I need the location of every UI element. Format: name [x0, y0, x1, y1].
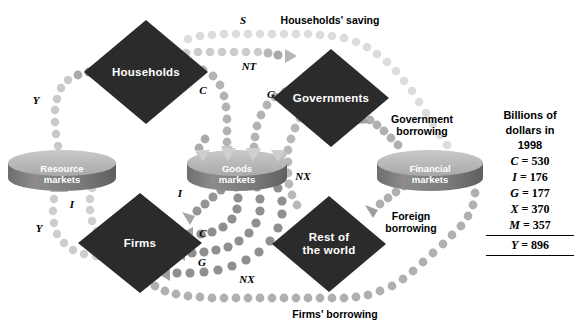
legend-row-g: G = 177 [486, 185, 574, 201]
legend-heading-line2: dollars in [486, 123, 574, 138]
market-label-line2: markets [219, 174, 255, 185]
flow-letter-nt: NT [241, 60, 258, 72]
flow-letter-c-bottom: C [199, 227, 207, 239]
legend-row-symbol: G [510, 186, 519, 200]
legend-total-row: Y = 896 [486, 235, 574, 256]
legend-row-symbol: X [511, 202, 519, 216]
flow-letter-nx-bottom: NX [238, 273, 255, 285]
sector-governments[interactable]: Governments [273, 49, 389, 147]
legend-row-eq: = [522, 154, 529, 168]
legend-row-eq: = [523, 218, 530, 232]
caption-government-borrowing-line1: Government [391, 113, 453, 125]
legend-row-m: M = 357 [486, 217, 574, 233]
flow-letter-y-top: Y [33, 94, 41, 106]
caption-households-saving: Households' saving [281, 14, 380, 26]
legend-row-symbol: I [512, 170, 517, 184]
circular-flow-diagram: Resource markets Goods markets Financial… [0, 0, 579, 326]
legend-row-c: C = 530 [486, 153, 574, 169]
flow-letter-s: S [240, 14, 246, 26]
caption-foreign-borrowing-line1: Foreign [392, 210, 431, 222]
flow-letter-y-bottom: Y [36, 222, 44, 234]
legend-panel: Billions of dollars in 1998 C = 530I = 1… [486, 108, 574, 256]
sector-firms[interactable]: Firms [78, 193, 202, 293]
legend-row-value: 370 [531, 202, 549, 216]
legend-rows: C = 530I = 176G = 177X = 370M = 357 [486, 153, 574, 233]
legend-row-eq: = [520, 170, 527, 184]
arrowhead-foreign-borrowing [365, 205, 378, 218]
sector-label-firms: Firms [124, 237, 156, 249]
legend-row-eq: = [522, 202, 529, 216]
market-label-line2: markets [44, 174, 80, 185]
market-resource-markets[interactable]: Resource markets [8, 150, 116, 191]
arrowhead-i-into-firms [182, 212, 195, 225]
flow-letter-g-top: G [267, 88, 275, 100]
legend-heading-line3: 1998 [486, 138, 574, 153]
legend-row-symbol: C [511, 154, 519, 168]
legend-total-value: 896 [531, 238, 549, 252]
legend-row-value: 530 [531, 154, 549, 168]
sector-label-rest-of-world-line2: the world [303, 244, 356, 256]
sector-label-households: Households [112, 66, 180, 78]
market-label-line1: Goods [222, 163, 252, 174]
legend-row-symbol: M [509, 218, 520, 232]
sector-label-governments: Governments [293, 92, 369, 104]
legend-total-eq: = [521, 238, 528, 252]
legend-row-value: 177 [532, 186, 550, 200]
market-financial-markets[interactable]: Financial markets [377, 150, 483, 191]
legend-total-symbol: Y [511, 238, 518, 252]
flow-letter-g-bottom: G [198, 256, 206, 268]
sector-label-rest-of-world-line1: Rest of [309, 231, 349, 243]
caption-government-borrowing-line2: borrowing [396, 125, 447, 137]
flow-path-y-resource-to-households [51, 67, 94, 150]
arrowhead-nt-into-governments [285, 49, 297, 63]
flow-letter-c-top: C [199, 84, 207, 96]
caption-firms-borrowing: Firms' borrowing [292, 308, 377, 320]
caption-foreign-borrowing-line2: borrowing [385, 222, 436, 234]
legend-row-eq: = [522, 186, 529, 200]
flow-path-nt-households-to-governments [182, 48, 283, 60]
flow-letter-i-left: I [69, 198, 75, 210]
legend-row-value: 176 [530, 170, 548, 184]
legend-row-i: I = 176 [486, 169, 574, 185]
legend-heading-line1: Billions of [486, 108, 574, 123]
flow-letter-nx-right: NX [294, 170, 311, 182]
legend-row-value: 357 [533, 218, 551, 232]
flow-path-i-into-goods [195, 135, 210, 153]
legend-row-x: X = 370 [486, 201, 574, 217]
market-label-line2: markets [412, 174, 448, 185]
flow-letter-i-right: I [177, 187, 183, 199]
market-label-line1: Financial [409, 163, 450, 174]
flow-path-c-households-to-goods [199, 66, 232, 147]
market-label-line1: Resource [40, 163, 83, 174]
